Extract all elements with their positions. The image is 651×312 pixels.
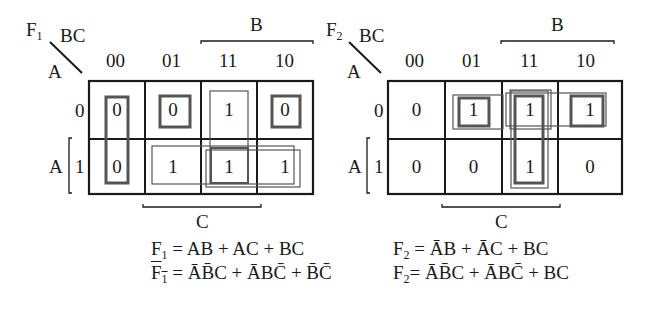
f2-cell-1-10: 0 — [558, 139, 622, 194]
f2-c-label: C — [495, 212, 508, 231]
f1-a-row-label: A — [49, 157, 63, 176]
f2-cell-0-10: 1 — [558, 81, 622, 139]
f1-b-label: B — [250, 15, 263, 34]
f1-cell-1-10: 1 — [257, 139, 313, 194]
f1-col-header-00: 00 — [106, 51, 125, 70]
f1-cell-1-00: 0 — [89, 139, 145, 194]
f2-b-label: B — [551, 15, 564, 34]
f2-cell-1-01: 0 — [445, 139, 502, 194]
f2-col-header-00: 00 — [405, 51, 424, 70]
f1-col-header-01: 01 — [162, 51, 181, 70]
f2-cell-1-11: 1 — [502, 139, 558, 194]
f1-a-bracket — [69, 138, 72, 193]
f2-a-bracket — [367, 138, 370, 193]
f1-cell-0-11: 1 — [201, 81, 257, 139]
f1-col-header-10: 10 — [275, 51, 294, 70]
f1-cell-0-10: 0 — [257, 81, 313, 139]
f1-cell-1-11: 1 — [201, 139, 257, 194]
f1-title: F1 — [26, 20, 43, 42]
f2-a-row-label: A — [348, 157, 362, 176]
f2-expanded-expression: F2= ĀB̄C + ĀBC̄ + BC — [393, 263, 569, 285]
f2-col-header-10: 10 — [576, 51, 595, 70]
f2-row-var-label: A — [347, 62, 361, 81]
f1-cell-0-00: 0 — [89, 81, 145, 139]
f2-b-bracket — [501, 41, 614, 44]
f2-cell-0-00: 0 — [388, 81, 445, 139]
f2-title: F2 — [326, 20, 343, 42]
f2-cell-0-11: 1 — [502, 81, 558, 139]
f2-col-header-01: 01 — [462, 51, 481, 70]
f1-bar: F1 — [151, 262, 168, 283]
f1-col-var-label: BC — [60, 26, 85, 45]
f2-row-header-0: 0 — [374, 101, 384, 120]
f1-cell-0-01: 0 — [145, 81, 201, 139]
f2-expression: F2 = ĀB + ĀC + BC — [393, 239, 548, 261]
f1-complement-expression: F1 = ĀB̄C + ĀBC̄ + B̄C̄ — [151, 263, 332, 285]
f1-row-header-0: 0 — [75, 101, 85, 120]
f1-b-bracket — [201, 41, 313, 44]
f2-c-bracket — [442, 204, 560, 207]
f1-c-label: C — [196, 212, 209, 231]
f1-cell-1-01: 1 — [145, 139, 201, 194]
f2-cell-0-01: 1 — [445, 81, 502, 139]
f2-col-var-label: BC — [359, 26, 384, 45]
f2-cell-1-00: 0 — [388, 139, 445, 194]
f2-col-header-11: 11 — [520, 51, 538, 70]
f1-expression: F1 = AB + AC + BC — [151, 239, 304, 261]
f1-row-var-label: A — [48, 62, 62, 81]
f2-row-header-1: 1 — [374, 157, 384, 176]
f1-col-header-11: 11 — [219, 51, 237, 70]
f1-c-bracket — [143, 204, 261, 207]
f1-row-header-1: 1 — [75, 157, 85, 176]
